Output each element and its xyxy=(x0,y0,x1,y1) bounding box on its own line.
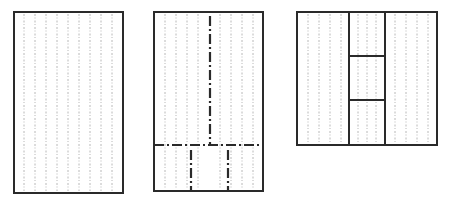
diagram-canvas xyxy=(0,0,452,201)
inset-panel xyxy=(297,12,437,145)
grain-lines xyxy=(24,14,112,191)
grain-lines xyxy=(308,14,428,143)
dashdot-division-panel xyxy=(154,12,263,191)
plain-panel xyxy=(14,12,123,193)
panel-frame xyxy=(154,12,263,191)
